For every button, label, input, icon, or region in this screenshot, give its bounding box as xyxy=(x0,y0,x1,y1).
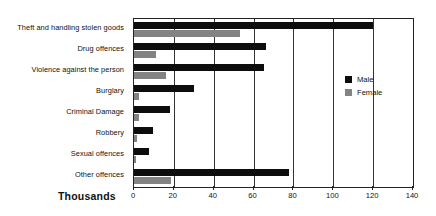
x-tick-mark xyxy=(173,186,174,190)
legend-label: Female xyxy=(357,88,382,97)
plot-area xyxy=(133,18,414,188)
x-tick-label: 80 xyxy=(279,191,305,200)
category-label: Robbery xyxy=(0,129,124,137)
bar-group xyxy=(134,19,413,40)
bar-male xyxy=(134,169,289,176)
x-axis-title: Thousands xyxy=(58,190,116,202)
x-tick-label: 60 xyxy=(240,191,266,200)
legend-swatch-icon xyxy=(345,76,352,83)
bar-male xyxy=(134,106,170,113)
category-label: Burglary xyxy=(0,87,124,95)
x-tick-mark xyxy=(133,186,134,190)
x-tick-label: 120 xyxy=(359,191,385,200)
x-tick-label: 0 xyxy=(120,191,146,200)
bar-chart: Theft and handling stolen goodsDrug offe… xyxy=(0,0,436,216)
bar-group xyxy=(134,166,413,187)
bar-female xyxy=(134,156,136,163)
bar-male xyxy=(134,43,266,50)
category-label: Sexual offences xyxy=(0,150,124,158)
category-axis: Theft and handling stolen goodsDrug offe… xyxy=(0,18,128,186)
x-tick-mark xyxy=(372,186,373,190)
x-axis: 020406080100120140 xyxy=(133,186,412,208)
x-tick-label: 100 xyxy=(319,191,345,200)
x-tick-mark xyxy=(332,186,333,190)
bar-female xyxy=(134,177,171,184)
bar-male xyxy=(134,22,373,29)
category-label: Theft and handling stolen goods xyxy=(0,24,124,32)
legend-label: Male xyxy=(357,75,373,84)
bar-group xyxy=(134,103,413,124)
x-tick-label: 40 xyxy=(200,191,226,200)
legend-item: Male xyxy=(345,74,415,85)
legend-swatch-icon xyxy=(345,89,352,96)
x-tick-label: 140 xyxy=(399,191,425,200)
x-tick-mark xyxy=(253,186,254,190)
x-tick-mark xyxy=(213,186,214,190)
legend-item: Female xyxy=(345,87,415,98)
bar-male xyxy=(134,64,264,71)
category-label: Criminal Damage xyxy=(0,108,124,116)
bar-female xyxy=(134,93,139,100)
bar-female xyxy=(134,51,156,58)
category-label: Violence against the person xyxy=(0,66,124,74)
category-label: Drug offences xyxy=(0,45,124,53)
bar-group xyxy=(134,145,413,166)
bar-male xyxy=(134,85,194,92)
chart-legend: MaleFemale xyxy=(345,74,415,100)
bar-female xyxy=(134,30,240,37)
bar-male xyxy=(134,148,149,155)
bar-group xyxy=(134,124,413,145)
bar-group xyxy=(134,40,413,61)
x-tick-mark xyxy=(412,186,413,190)
bar-female xyxy=(134,72,166,79)
bar-male xyxy=(134,127,153,134)
bar-female xyxy=(134,114,139,121)
category-label: Other offences xyxy=(0,171,124,179)
x-tick-label: 20 xyxy=(160,191,186,200)
bar-female xyxy=(134,135,137,142)
x-tick-mark xyxy=(292,186,293,190)
